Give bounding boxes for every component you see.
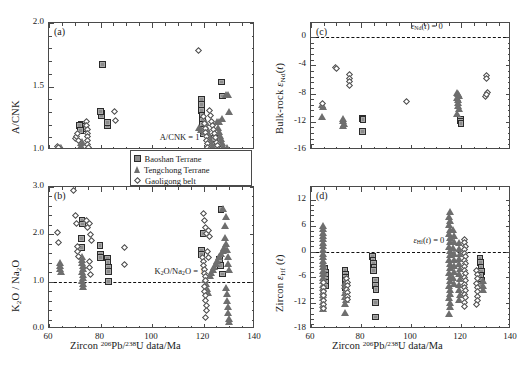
axis-label-y-d: Zircon εHf (t) (274, 255, 287, 313)
data-point-diamond (402, 98, 409, 105)
x-tick-label: 60 (301, 331, 319, 341)
panel-tag-b: (b) (54, 190, 66, 201)
x-tick-label: 120 (451, 331, 469, 341)
y-tick-label: -18 (284, 322, 306, 332)
data-point-diamond (343, 296, 350, 303)
legend-square-icon (134, 155, 141, 162)
data-point-diamond (121, 261, 128, 268)
data-point-diamond (88, 237, 95, 244)
legend-item-2: Gaoligong belt (134, 175, 247, 186)
data-point-diamond (319, 305, 326, 312)
data-point-diamond (199, 210, 206, 217)
data-point-diamond (54, 229, 61, 236)
legend-diamond-icon (134, 177, 141, 184)
y-tick-label: -12 (284, 296, 306, 306)
y-tick-label: 6 (284, 219, 306, 229)
axis-label-x-d: Zircon 206Pb/238U data/Ma (332, 340, 443, 351)
series-diamond-c (311, 23, 510, 149)
axis-label-y-a: A/CNK (10, 100, 21, 134)
axis-label-y-c: Bulk-rock εNd(t) (274, 63, 287, 134)
axis-label-x-b: Zircon 206Pb/238U data/Ma (70, 340, 181, 351)
data-point-diamond (87, 271, 94, 278)
legend-label-0: Baoshan Terrane (145, 154, 202, 164)
y-tick-label: 12 (284, 193, 306, 203)
legend-label-2: Gaoligong belt (145, 176, 196, 186)
x-tick-label: 140 (501, 331, 519, 341)
y-tick-label: -4 (284, 58, 306, 68)
data-point-diamond (203, 306, 210, 313)
data-point-diamond (333, 65, 340, 72)
y-tick-label: 3.0 (22, 180, 44, 190)
legend-triangle-icon (134, 166, 140, 173)
figure-root: A/CNK = 1(a)1.01.52.0A/CNKK2O/Na2O = 1(b… (0, 0, 521, 366)
plot-area-c: εNd(t) = 0 (310, 22, 510, 149)
y-tick-label: -12 (284, 115, 306, 125)
data-point-diamond (318, 100, 325, 107)
data-point-diamond (73, 220, 80, 227)
x-tick-label: 120 (194, 331, 212, 341)
y-tick-label: 2.0 (22, 227, 44, 237)
data-point-diamond (346, 82, 353, 89)
y-tick-label: 1.5 (22, 80, 44, 90)
data-point-triangle (78, 148, 86, 149)
data-point-diamond (206, 233, 213, 240)
plot-area-a: A/CNK = 1 (48, 22, 254, 149)
series-diamond-b (49, 187, 254, 328)
x-tick-label: 140 (245, 331, 263, 341)
y-tick-label: -16 (284, 143, 306, 153)
data-point-diamond (121, 244, 128, 251)
data-point-diamond (55, 239, 62, 246)
data-point-diamond (75, 137, 82, 144)
data-point-diamond (205, 253, 212, 260)
x-tick-label: 60 (39, 331, 57, 341)
y-tick-label: 1.0 (22, 143, 44, 153)
plot-area-b: K2O/Na2O = 1 (48, 186, 254, 328)
data-point-diamond (112, 117, 119, 124)
data-point-diamond (55, 144, 62, 149)
plot-area-d: εHf(t) = 0 (310, 186, 510, 328)
data-point-diamond (70, 187, 77, 194)
data-point-triangle (221, 148, 229, 149)
y-tick-label: 2.0 (22, 16, 44, 26)
y-tick-label: -6 (284, 270, 306, 280)
panel-tag-d: (d) (316, 190, 328, 201)
axis-label-y-b: K2O / Na2O (10, 260, 23, 312)
series-diamond-a (49, 23, 254, 149)
legend-item-0: Baoshan Terrane (134, 153, 247, 164)
data-point-diamond (200, 217, 207, 224)
series-diamond-d (311, 187, 510, 328)
data-point-diamond (72, 212, 79, 219)
y-tick-label: 0 (284, 245, 306, 255)
legend-label-1: Tengchong Terrane (144, 165, 209, 175)
y-tick-label: 0.0 (22, 322, 44, 332)
data-point-diamond (195, 47, 202, 54)
data-point-diamond (461, 303, 468, 310)
data-point-diamond (111, 108, 118, 115)
panel-tag-c: (c) (316, 26, 327, 37)
y-tick-label: 1.0 (22, 275, 44, 285)
y-tick-label: 0 (284, 30, 306, 40)
data-point-diamond (202, 314, 209, 321)
panel-tag-a: (a) (54, 26, 65, 37)
legend-item-1: Tengchong Terrane (134, 164, 247, 175)
y-tick-label: -8 (284, 87, 306, 97)
legend: Baoshan TerraneTengchong TerraneGaoligon… (130, 150, 252, 186)
